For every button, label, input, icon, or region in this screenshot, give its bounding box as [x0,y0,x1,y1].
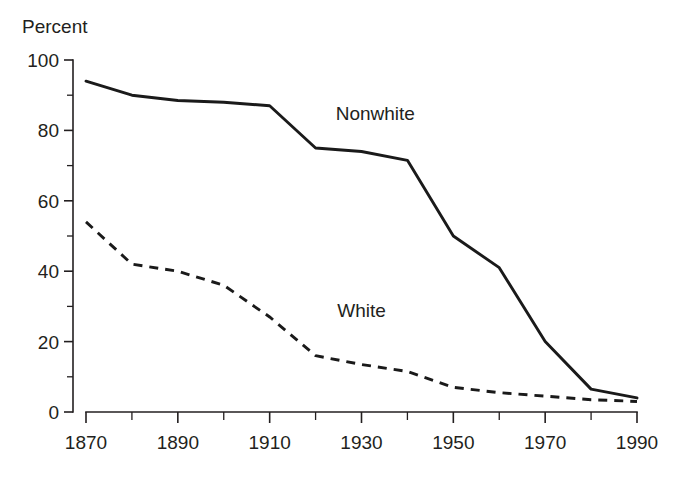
x-tick-label: 1950 [432,432,474,453]
x-axis-tick-labels: 1870189019101930195019701990 [65,432,658,453]
x-axis: 1870189019101930195019701990 [65,412,658,453]
series-annotation-labels: NonwhiteWhite [336,103,415,321]
y-axis-title-group: Percent [22,16,88,37]
series-label-white: White [337,300,386,321]
y-tick-label: 40 [38,261,59,282]
x-tick-label: 1910 [249,432,291,453]
y-axis-tick-labels: 020406080100 [27,50,59,423]
series-line-nonwhite [86,81,637,398]
y-tick-label: 20 [38,332,59,353]
y-tick-label: 80 [38,120,59,141]
y-tick-label: 0 [48,402,59,423]
y-axis-title: Percent [22,16,88,37]
series-label-nonwhite: Nonwhite [336,103,415,124]
y-tick-label: 100 [27,50,59,71]
chart-container: Percent 020406080100 1870189019101930195… [0,0,681,479]
x-tick-label: 1930 [340,432,382,453]
y-axis: 020406080100 [27,50,73,423]
y-axis-minor-ticks [67,95,73,377]
data-series-group [86,81,637,401]
x-tick-label: 1890 [157,432,199,453]
x-tick-label: 1870 [65,432,107,453]
x-tick-label: 1970 [524,432,566,453]
x-tick-label: 1990 [616,432,658,453]
y-tick-label: 60 [38,191,59,212]
line-chart: Percent 020406080100 1870189019101930195… [0,0,681,479]
x-axis-major-ticks [86,412,637,423]
